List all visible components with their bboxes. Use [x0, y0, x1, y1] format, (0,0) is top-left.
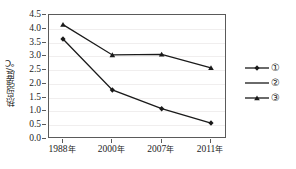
y-axis-tick [42, 14, 46, 15]
y-axis-tick [42, 97, 46, 98]
y-axis-tick [42, 42, 46, 43]
y-axis-tick-label: 0.5 [29, 119, 41, 129]
y-axis-tick [42, 110, 46, 111]
x-axis-tick-label: 2007年 [147, 143, 174, 154]
y-axis-tick-label: 2.0 [29, 78, 41, 88]
y-axis-tick [42, 124, 46, 125]
y-axis-tick-labels: 0.00.51.01.52.02.53.03.54.04.5 [20, 14, 46, 138]
y-axis-title: 热岛强度/℃ [2, 32, 16, 134]
y-axis-tick [42, 138, 46, 139]
data-point-marker [254, 65, 259, 71]
legend-item[interactable]: ① [244, 60, 294, 75]
legend-label: ③ [271, 93, 280, 103]
y-axis-tick-label: 2.5 [29, 64, 41, 74]
x-axis-tick-labels: 1988年2000年2007年2011年 [48, 139, 226, 165]
x-axis-tick-label: 2011年 [197, 143, 224, 154]
y-axis-tick [42, 83, 46, 84]
chart-figure: 热岛强度/℃ 0.00.51.01.52.02.53.03.54.04.5 19… [0, 0, 296, 169]
y-axis-title-text: 热岛强度/℃ [3, 58, 16, 107]
y-axis-tick [42, 55, 46, 56]
y-axis-tick-label: 3.0 [29, 50, 41, 60]
x-axis-tick-label: 2000年 [98, 143, 125, 154]
data-point-marker [60, 22, 66, 27]
data-point-marker [159, 106, 164, 112]
y-axis-tick-label: 3.5 [29, 37, 41, 47]
legend-label: ② [271, 78, 280, 88]
y-axis-tick-label: 1.0 [29, 105, 41, 115]
legend-symbol [244, 91, 270, 105]
y-axis-tick-label: 1.5 [29, 92, 41, 102]
chart-legend: ①②③ [244, 60, 294, 108]
y-axis-tick [42, 28, 46, 29]
legend-symbol [244, 76, 270, 90]
legend-item[interactable]: ③ [244, 90, 294, 105]
plot-area [48, 14, 226, 138]
x-axis-tick-label: 1988年 [49, 143, 76, 154]
y-axis-tick [42, 69, 46, 70]
legend-item[interactable]: ② [244, 75, 294, 90]
series-lines [49, 15, 227, 139]
y-axis-tick-label: 4.5 [29, 9, 41, 19]
series-line [63, 39, 211, 123]
y-axis-tick-label: 4.0 [29, 23, 41, 33]
y-axis-tick-label: 0.0 [29, 133, 41, 143]
legend-symbol [244, 61, 270, 75]
legend-label: ① [271, 63, 280, 73]
data-point-marker [208, 120, 213, 126]
